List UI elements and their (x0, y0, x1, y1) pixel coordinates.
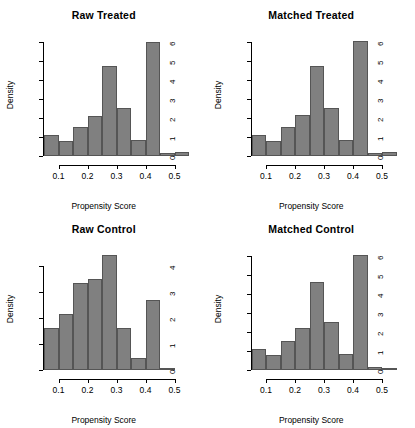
x-axis-tick (117, 165, 118, 169)
histogram-bar (73, 127, 88, 156)
x-axis-tick-label: 0.1 (53, 385, 65, 395)
y-axis-tick-label: 2 (376, 117, 385, 121)
bar-series (252, 250, 397, 370)
x-axis-tick (146, 379, 147, 383)
x-axis-tick (146, 165, 147, 169)
panel-raw-treated: Raw Treated Density Propensity Score 012… (0, 0, 208, 214)
histogram-bar (59, 141, 74, 156)
y-axis-tick-label: 3 (376, 312, 385, 316)
x-axis-tick (59, 165, 60, 169)
x-axis (266, 165, 382, 166)
y-axis-tick (247, 275, 251, 276)
y-axis-tick (39, 156, 43, 157)
histogram-bar (146, 300, 161, 370)
x-axis-tick (382, 165, 383, 169)
y-axis (251, 256, 252, 370)
histogram-bar (339, 140, 354, 156)
y-axis-tick-label: 0 (168, 156, 177, 160)
y-axis-tick-label: 1 (168, 343, 177, 347)
y-axis-tick (247, 370, 251, 371)
x-axis-title: Propensity Score (208, 415, 415, 425)
histogram-bar (146, 42, 161, 156)
y-axis-tick-label: 5 (376, 60, 385, 64)
bar-series (252, 36, 397, 156)
histogram-bar (252, 349, 267, 370)
y-axis-tick-label: 4 (376, 79, 385, 83)
histogram-bar (310, 282, 325, 370)
histogram-bar (117, 108, 132, 156)
x-axis-tick-label: 0.5 (376, 171, 388, 181)
x-axis-tick (59, 379, 60, 383)
x-axis-tick (266, 165, 267, 169)
x-axis-tick-label: 0.1 (260, 171, 272, 181)
y-axis-tick (39, 370, 43, 371)
histogram-bar (102, 66, 117, 156)
x-axis-tick (295, 165, 296, 169)
y-axis-tick-label: 4 (376, 293, 385, 297)
histogram-bar (353, 41, 368, 156)
x-axis (59, 379, 175, 380)
x-axis-tick-label: 0.1 (53, 171, 65, 181)
y-axis-tick (247, 42, 251, 43)
y-axis-tick-label: 6 (376, 255, 385, 259)
histogram-panel-grid: Raw Treated Density Propensity Score 012… (0, 0, 415, 428)
y-axis-tick-label: 5 (376, 274, 385, 278)
y-axis-tick-label: 6 (376, 41, 385, 45)
y-axis-tick-label: 5 (168, 60, 177, 64)
x-axis-tick-label: 0.5 (169, 385, 181, 395)
x-axis-tick (382, 379, 383, 383)
y-axis-title: Density (213, 281, 223, 337)
y-axis-tick (247, 294, 251, 295)
y-axis (43, 42, 44, 156)
panel-title: Raw Treated (0, 9, 208, 21)
x-axis (59, 165, 175, 166)
x-axis-tick-label: 0.3 (111, 171, 123, 181)
y-axis-tick-label: 3 (376, 98, 385, 102)
x-axis-tick (175, 165, 176, 169)
x-axis-title: Propensity Score (0, 415, 208, 425)
plot-area (252, 250, 397, 370)
x-axis-tick-label: 0.2 (289, 385, 301, 395)
histogram-bar (131, 140, 146, 156)
x-axis-tick-label: 0.3 (111, 385, 123, 395)
x-axis (266, 379, 382, 380)
x-axis-tick-label: 0.2 (289, 171, 301, 181)
y-axis-tick (247, 118, 251, 119)
y-axis-tick (247, 332, 251, 333)
x-axis-tick (117, 379, 118, 383)
panel-raw-control: Raw Control Density Propensity Score 012… (0, 214, 208, 428)
x-axis-tick (295, 379, 296, 383)
y-axis-tick-label: 0 (168, 370, 177, 374)
histogram-bar (281, 127, 296, 156)
histogram-bar (44, 135, 59, 156)
y-axis-tick-label: 1 (376, 136, 385, 140)
histogram-bar (295, 115, 310, 156)
y-axis-tick-label: 3 (168, 98, 177, 102)
x-axis-tick-label: 0.4 (140, 385, 152, 395)
x-axis-tick-label: 0.5 (169, 171, 181, 181)
histogram-bar (310, 66, 325, 156)
y-axis (43, 266, 44, 370)
histogram-bar (295, 328, 310, 370)
y-axis-tick-label: 3 (168, 291, 177, 295)
x-axis-tick-label: 0.3 (318, 385, 330, 395)
x-axis-tick (88, 379, 89, 383)
x-axis-tick-label: 0.3 (318, 171, 330, 181)
x-axis-tick-label: 0.4 (140, 171, 152, 181)
histogram-bar (324, 322, 339, 370)
y-axis-tick (247, 99, 251, 100)
histogram-bar (117, 328, 132, 370)
y-axis-tick (39, 344, 43, 345)
histogram-bar (88, 279, 103, 370)
y-axis-tick (247, 351, 251, 352)
panel-matched-control: Matched Control Density Propensity Score… (208, 214, 415, 428)
y-axis-tick (39, 99, 43, 100)
y-axis-tick (247, 137, 251, 138)
panel-title: Raw Control (0, 223, 208, 235)
x-axis-tick (324, 379, 325, 383)
y-axis-tick (39, 80, 43, 81)
y-axis-tick-label: 1 (168, 136, 177, 140)
x-axis-tick-label: 0.4 (347, 385, 359, 395)
histogram-bar (131, 358, 146, 370)
y-axis-tick (39, 118, 43, 119)
